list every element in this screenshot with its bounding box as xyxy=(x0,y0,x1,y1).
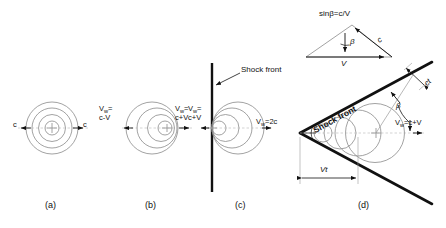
panel-caption-d: (d) xyxy=(358,200,369,210)
panel-c xyxy=(201,63,272,192)
panel-d xyxy=(300,25,432,204)
panel-c-shock-front-leader xyxy=(216,73,240,85)
panel-d-vt-label: Vt xyxy=(320,166,328,175)
panel-c-label-wave-speed: Vw=2c xyxy=(256,118,277,127)
shock-wave-figure: c c Vw= c-V Vw= c+V Shock front Vw= c+V … xyxy=(0,0,446,228)
panel-d-mach-relation: sinβ=c/V xyxy=(319,10,350,19)
vector-c-arrow xyxy=(355,28,392,57)
panel-c-label-upstream-value: c+V xyxy=(188,114,201,123)
figure-canvas xyxy=(0,0,446,228)
panel-caption-a: (a) xyxy=(45,200,56,210)
panel-d-vector-V-label: V xyxy=(341,60,346,69)
panel-caption-b: (b) xyxy=(145,200,156,210)
panel-c-shock-front-label: Shock front xyxy=(241,66,281,75)
panel-b-label-downstream-value: c+V xyxy=(175,114,188,123)
panel-a-label-c-left: c xyxy=(13,121,17,130)
panel-a-label-c-right: c xyxy=(83,121,87,130)
ct-dimension-ext-upper xyxy=(404,63,412,70)
panel-d-beta-cone-label: β xyxy=(396,102,401,111)
panel-d-beta-vector-label: β xyxy=(350,38,355,47)
panel-a xyxy=(18,102,88,154)
panel-d-wave-speed-label: Vw=c+V xyxy=(395,119,422,128)
panel-b-label-upstream-value: c-V xyxy=(99,114,110,123)
panel-caption-c: (c) xyxy=(235,200,246,210)
